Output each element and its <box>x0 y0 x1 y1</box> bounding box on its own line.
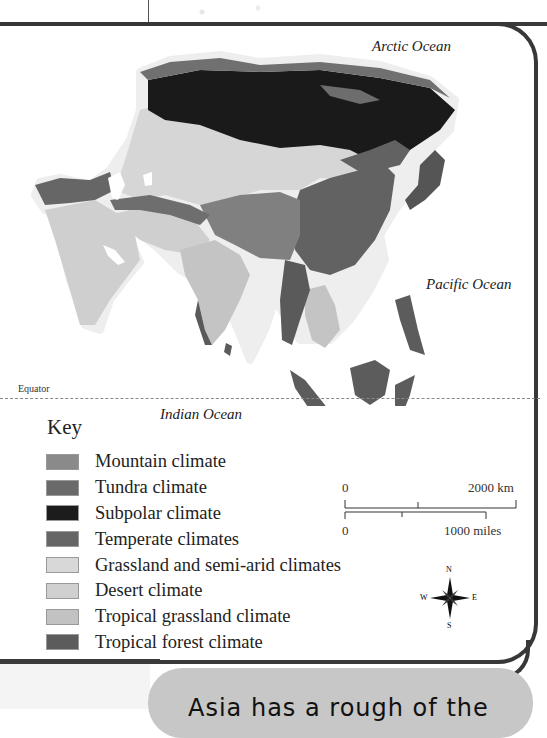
indian-ocean-label: Indian Ocean <box>160 406 242 423</box>
swatch-temperate <box>46 531 79 547</box>
tropical-forest-philippines <box>395 295 425 355</box>
scale-km-end: 2000 km <box>468 480 514 496</box>
tropical-forest-srilanka <box>224 343 232 356</box>
legend-label: Tundra climate <box>95 477 207 498</box>
legend-item-grassland: Grassland and semi-arid climates <box>46 552 341 578</box>
equator-label: Equator <box>18 383 50 394</box>
compass-w: W <box>420 593 428 602</box>
scale-miles-end: 1000 miles <box>444 523 501 539</box>
scale-miles-start: 0 <box>342 523 349 539</box>
swatch-tundra <box>46 480 79 496</box>
swatch-mountain <box>46 454 79 470</box>
background-texture <box>160 0 300 20</box>
key-title: Key <box>47 415 82 440</box>
tropical-forest-sulawesi <box>395 375 415 406</box>
asia-climate-map <box>0 26 547 406</box>
compass-rose: N S W E <box>420 565 480 634</box>
legend-label: Subpolar climate <box>95 503 221 524</box>
compass-n: N <box>446 565 452 574</box>
equator-line <box>0 398 540 399</box>
divider-line <box>148 0 149 22</box>
arctic-ocean-label: Arctic Ocean <box>372 38 451 55</box>
legend-label: Mountain climate <box>95 451 226 472</box>
compass-e: E <box>472 593 477 602</box>
legend-item-desert: Desert climate <box>46 578 341 604</box>
legend-item-tropical-forest: Tropical forest climate <box>46 630 341 656</box>
scale-bar: 0 2000 km 0 1000 miles <box>340 480 520 550</box>
background-texture <box>0 664 150 709</box>
legend-label: Tropical forest climate <box>95 632 263 653</box>
swatch-grassland <box>46 557 79 573</box>
swatch-tropical-forest <box>46 634 79 650</box>
legend: Mountain climate Tundra climate Subpolar… <box>46 449 341 655</box>
caption-text: Asia has a rough of the <box>188 694 489 722</box>
legend-label: Temperate climates <box>95 529 239 550</box>
legend-item-mountain: Mountain climate <box>46 449 341 475</box>
legend-item-temperate: Temperate climates <box>46 526 341 552</box>
legend-label: Grassland and semi-arid climates <box>95 555 341 576</box>
legend-item-tundra: Tundra climate <box>46 475 341 501</box>
swatch-tropical-grassland <box>46 609 79 625</box>
legend-item-tropical-grassland: Tropical grassland climate <box>46 604 341 630</box>
legend-item-subpolar: Subpolar climate <box>46 501 341 527</box>
legend-label: Tropical grassland climate <box>95 606 291 627</box>
legend-label: Desert climate <box>95 580 202 601</box>
scale-km-start: 0 <box>342 480 349 496</box>
compass-s: S <box>447 621 451 630</box>
swatch-desert <box>46 583 79 599</box>
swatch-subpolar <box>46 505 79 521</box>
pacific-ocean-label: Pacific Ocean <box>426 276 511 293</box>
tropical-forest-sumatra <box>290 370 335 406</box>
